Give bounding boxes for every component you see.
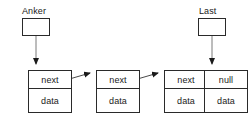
node-next-cell: next [97, 71, 139, 89]
node-data-cell: data [205, 89, 247, 112]
node-data-cell: data [97, 89, 139, 112]
list-node: next data [164, 70, 208, 113]
node-data-cell: data [165, 89, 207, 112]
anker-pointer-box [22, 18, 50, 36]
last-pointer-label: Last [199, 6, 216, 16]
list-node: next data [96, 70, 140, 113]
node-next-cell: next [165, 71, 207, 89]
node-next-cell: next [29, 71, 71, 89]
list-node-tail: null data [204, 70, 248, 113]
list-node: next data [28, 70, 72, 113]
node-data-cell: data [29, 89, 71, 112]
last-pointer-box [198, 18, 226, 36]
node-next-cell-null: null [205, 71, 247, 89]
linked-list-diagram: Anker Last next data next data next data… [0, 0, 250, 124]
anker-pointer-label: Anker [22, 6, 46, 16]
